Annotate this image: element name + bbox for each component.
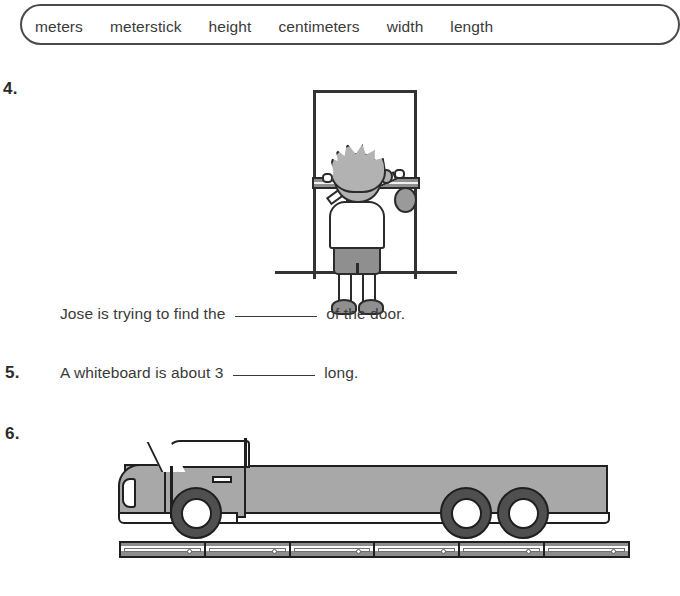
- truck-bed-lower-rail: [230, 512, 610, 524]
- word-bank-item-meterstick[interactable]: meterstick: [110, 18, 182, 36]
- word-bank-item-length[interactable]: length: [450, 18, 493, 36]
- truck-front-wheel-hub: [181, 498, 212, 529]
- meterstick-segment: [460, 543, 545, 556]
- boy-right-hand: [394, 169, 405, 179]
- truck-bed: [230, 465, 608, 517]
- word-bank-word-list: meters meterstick height centimeters wid…: [22, 6, 520, 47]
- truck-door-handle: [212, 476, 232, 483]
- item-5-text-before: A whiteboard is about 3: [60, 364, 223, 381]
- boy-figure: [316, 143, 416, 277]
- illustration-boy-measuring-door: [270, 85, 465, 280]
- meterstick-segment: [545, 543, 628, 556]
- item-number-4: 4.: [3, 79, 18, 99]
- item-5-text-after: long.: [324, 364, 358, 381]
- boy-left-hand: [322, 173, 333, 183]
- word-bank-item-width[interactable]: width: [387, 18, 424, 36]
- meterstick-segment: [206, 543, 291, 556]
- truck-headlight: [122, 478, 136, 508]
- truck-rear-wheel-1: [440, 487, 492, 539]
- item-4-answer-blank[interactable]: [235, 316, 317, 317]
- boy-hair: [330, 143, 386, 193]
- item-number-5: 5.: [5, 363, 20, 383]
- truck-rear-wheel-1-hub: [451, 498, 482, 529]
- truck-rear-wheel-2-hub: [508, 498, 539, 529]
- truck-front-wheel: [170, 487, 222, 539]
- word-bank-item-centimeters[interactable]: centimeters: [278, 18, 359, 36]
- truck-cab-rear-post: [244, 438, 247, 468]
- item-4-text-after: of the door.: [326, 305, 405, 322]
- item-4-sentence: Jose is trying to find the of the door.: [60, 305, 405, 323]
- meterstick-row: [119, 541, 630, 558]
- illustration-flatbed-truck: [110, 446, 640, 538]
- boy-shorts-seam: [356, 263, 359, 275]
- item-number-6: 6.: [5, 424, 20, 444]
- truck-rear-wheel-2: [497, 487, 549, 539]
- word-bank-item-meters[interactable]: meters: [35, 18, 83, 36]
- item-5-answer-blank[interactable]: [233, 375, 315, 376]
- item-4-text-before: Jose is trying to find the: [60, 305, 225, 322]
- meterstick-segment: [375, 543, 460, 556]
- meterstick-segment: [121, 543, 206, 556]
- meterstick-segment: [291, 543, 376, 556]
- word-bank-item-height[interactable]: height: [209, 18, 252, 36]
- boy-shirt: [329, 201, 385, 249]
- word-bank: meters meterstick height centimeters wid…: [20, 4, 680, 45]
- item-5-sentence: A whiteboard is about 3 long.: [60, 364, 358, 382]
